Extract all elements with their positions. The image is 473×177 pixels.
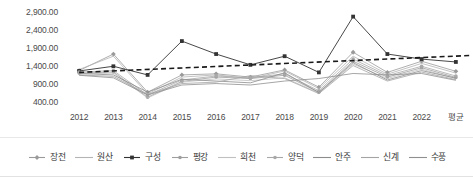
x-axis-tick-label: 2012 [70, 112, 88, 122]
series-line [79, 66, 456, 95]
data-point-marker [178, 155, 182, 159]
data-point-marker [351, 15, 355, 19]
legend-label: 평강 [193, 152, 209, 162]
legend-swatch-icon [27, 153, 47, 162]
legend-swatch-icon [265, 153, 285, 162]
data-point-marker [111, 64, 115, 68]
data-point-marker [420, 64, 424, 68]
data-point-marker [146, 73, 150, 77]
y-axis-tick-label: 1,400.00 [26, 62, 58, 71]
legend-swatch-icon [312, 153, 332, 162]
legend-swatch-icon [217, 153, 237, 162]
x-axis: 2012201320142015201620172018201920202021… [62, 112, 473, 130]
legend-label: 희천 [240, 152, 256, 162]
data-point-marker [214, 52, 218, 56]
y-axis-tick-label: 400.00 [33, 98, 58, 107]
data-point-marker [214, 74, 218, 78]
x-axis-tick-label: 2021 [378, 112, 396, 122]
legend-item-희천[interactable]: 희천 [217, 152, 256, 162]
data-point-marker [273, 155, 277, 159]
series-신계 [79, 66, 456, 95]
legend-item-장전[interactable]: 장전 [27, 152, 66, 162]
y-axis-tick-label: 2,900.00 [26, 8, 58, 17]
plot-area: 2,900.002,400.001,900.001,400.00900.0040… [0, 0, 473, 133]
data-point-marker [454, 74, 458, 78]
legend-swatch-icon [408, 153, 428, 162]
y-axis: 2,900.002,400.001,900.001,400.00900.0040… [0, 0, 62, 112]
x-axis-tick-label: 평균 [448, 112, 464, 122]
legend-item-수풍[interactable]: 수풍 [408, 152, 447, 162]
data-point-marker [420, 57, 424, 61]
legend-swatch-icon [170, 153, 190, 162]
legend-label: 장전 [50, 152, 66, 162]
trendline [79, 55, 470, 72]
series-구성 [77, 15, 458, 77]
legend-item-원산[interactable]: 원산 [74, 152, 113, 162]
x-axis-tick-label: 2015 [173, 112, 191, 122]
data-point-marker [454, 60, 458, 64]
legend-label: 구성 [145, 152, 161, 162]
data-point-marker [283, 54, 287, 58]
x-axis-tick-label: 2013 [104, 112, 122, 122]
data-point-marker [385, 52, 389, 56]
data-point-marker [386, 74, 390, 78]
legend-label: 안주 [335, 152, 351, 162]
legend-item-구성[interactable]: 구성 [122, 152, 161, 162]
legend-label: 양덕 [288, 152, 304, 162]
y-axis-tick-label: 2,400.00 [26, 26, 58, 35]
data-point-marker [180, 39, 184, 43]
x-axis-tick-label: 2014 [138, 112, 156, 122]
x-axis-tick-label: 2022 [412, 112, 430, 122]
legend-item-안주[interactable]: 안주 [312, 152, 351, 162]
line-chart: 2,900.002,400.001,900.001,400.00900.0040… [0, 0, 473, 177]
data-point-marker [130, 155, 134, 159]
legend-item-양덕[interactable]: 양덕 [265, 152, 304, 162]
data-point-marker [317, 71, 321, 75]
series-line [79, 17, 456, 75]
data-point-marker [34, 155, 39, 160]
x-axis-tick-label: 2017 [241, 112, 259, 122]
legend-item-평강[interactable]: 평강 [170, 152, 209, 162]
legend-label: 수풍 [431, 152, 447, 162]
data-point-marker [249, 76, 253, 80]
x-axis-tick-label: 2019 [310, 112, 328, 122]
x-axis-tick-label: 2016 [207, 112, 225, 122]
legend-swatch-icon [122, 153, 142, 162]
legend-label: 원산 [97, 152, 113, 162]
legend-swatch-icon [360, 153, 380, 162]
y-axis-tick-label: 1,900.00 [26, 44, 58, 53]
legend-item-신계[interactable]: 신계 [360, 152, 399, 162]
chart-legend: 장전원산구성평강희천양덕안주신계수풍 [0, 137, 473, 177]
y-axis-tick-label: 900.00 [33, 80, 58, 89]
legend-swatch-icon [74, 153, 94, 162]
legend-label: 신계 [383, 152, 399, 162]
x-axis-tick-label: 2018 [275, 112, 293, 122]
plot-svg [62, 0, 473, 112]
x-axis-tick-label: 2020 [344, 112, 362, 122]
